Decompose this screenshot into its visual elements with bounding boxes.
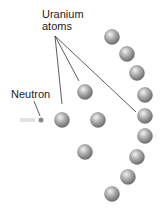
uranium-atom (105, 30, 120, 45)
uranium-atom (105, 187, 120, 202)
uranium-atoms (55, 30, 153, 202)
uranium-atoms-label: Uranium atoms (42, 8, 84, 32)
uranium-label-line1: Uranium (42, 8, 84, 20)
uranium-atom (55, 113, 70, 128)
uranium-atom (138, 129, 153, 144)
uranium-atom (130, 66, 145, 81)
uranium-atom (130, 150, 145, 165)
uranium-atom (138, 88, 153, 103)
uranium-label-line2: atoms (42, 20, 84, 32)
uranium-atom (91, 113, 106, 128)
uranium-atom (138, 109, 153, 124)
fission-diagram (0, 0, 168, 223)
neutron-leader-line (34, 101, 40, 116)
uranium-atom (121, 170, 136, 185)
uranium-atom (78, 85, 93, 100)
neutron-label: Neutron (11, 88, 50, 100)
uranium-atom (120, 47, 135, 62)
uranium-atom (78, 145, 93, 160)
neutron-motion-lines (20, 119, 35, 121)
neutron-dot (39, 118, 44, 123)
